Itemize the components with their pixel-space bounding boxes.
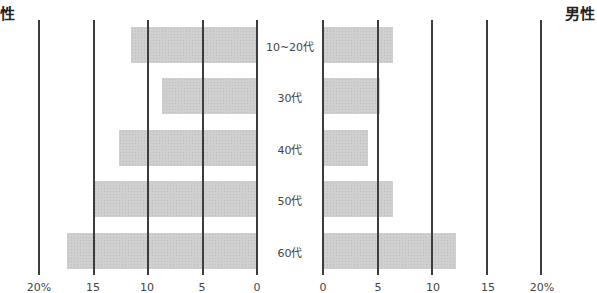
- left-tick-15: 15: [86, 281, 100, 293]
- female-bar: [119, 130, 257, 166]
- age-category-label: 50代: [257, 192, 323, 208]
- age-category-label: 60代: [257, 244, 323, 260]
- male-bar: [323, 78, 380, 114]
- female-bar: [94, 181, 258, 217]
- right-gridline-20: [540, 20, 542, 275]
- male-panel-title: 男性: [565, 2, 595, 23]
- right-tick-10: 10: [426, 281, 440, 293]
- right-gridline-15: [486, 20, 488, 275]
- age-category-label: 10~20代: [257, 38, 323, 54]
- left-tick-20: 20%: [27, 281, 51, 293]
- left-tick-5: 5: [199, 281, 206, 293]
- right-gridline-10: [431, 20, 433, 275]
- right-tick-20: 20%: [530, 281, 554, 293]
- male-bar: [323, 130, 368, 166]
- male-bar: [323, 233, 456, 269]
- right-tick-5: 5: [375, 281, 382, 293]
- female-bar: [162, 78, 257, 114]
- age-category-label: 30代: [257, 89, 323, 105]
- female-bar: [131, 27, 257, 63]
- left-tick-0: 0: [254, 281, 261, 293]
- left-gridline-5: [202, 20, 204, 275]
- left-gridline-15: [93, 20, 95, 275]
- age-category-label: 40代: [257, 141, 323, 157]
- right-gridline-5: [377, 20, 379, 275]
- female-bar: [67, 233, 257, 269]
- left-gridline-10: [147, 20, 149, 275]
- female-panel-title: 性: [0, 2, 15, 23]
- right-tick-0: 0: [320, 281, 327, 293]
- left-gridline-20: [38, 20, 40, 275]
- left-tick-10: 10: [140, 281, 154, 293]
- male-bar: [323, 181, 393, 217]
- male-bar: [323, 27, 393, 63]
- right-tick-15: 15: [481, 281, 495, 293]
